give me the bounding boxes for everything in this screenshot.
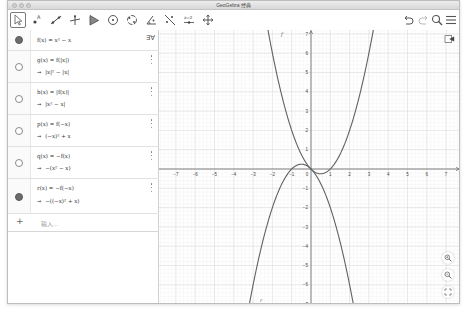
svg-text:f: f [280,32,284,37]
result-r: →−((−x)² + x) [37,198,80,204]
line-icon [50,14,62,26]
svg-text:−6: −6 [303,282,309,287]
undo-icon [403,14,415,26]
svg-text:−1: −1 [289,172,295,177]
algebra-item-h[interactable]: h(x) = |f(x)| →|x² − x| [8,83,159,115]
result-g: →|x|² − |x| [37,69,69,75]
marble-cell [8,147,31,178]
arrow-icon: → [37,101,41,107]
curve-r [246,164,357,304]
fullscreen-icon [444,288,452,296]
result-text: |x² − x| [45,101,65,107]
zoom-out-button[interactable] [442,269,454,281]
svg-text:−3: −3 [303,225,309,230]
algebra-item-q[interactable]: q(x) = −f(x) →−(x² − x) [8,147,159,179]
more-options-icon[interactable] [150,55,153,64]
plus-icon[interactable]: + [16,216,24,226]
angle-icon [145,14,157,26]
visibility-toggle-g[interactable] [15,63,23,71]
result-text: |x|² − |x| [45,69,69,75]
style-bar-toggle-button[interactable] [443,33,457,45]
definition-p[interactable]: p(x) = f(−x) [37,121,70,127]
window-title: GeoGebra 经典 [8,1,459,10]
algebra-item-f[interactable]: f(x) = x² − x ∃∀ [8,30,159,51]
arrow-icon: → [37,165,41,171]
more-options-icon[interactable] [150,151,153,160]
svg-text:−5: −5 [212,172,218,177]
visibility-toggle-h[interactable] [15,95,23,103]
svg-text:−1: −1 [303,186,309,191]
algebra-view: f(x) = x² − x ∃∀ g(x) = f(|x|) →|x|² − |… [8,30,159,304]
marble-cell [8,51,31,82]
polygon-tool-button[interactable] [86,12,102,28]
visibility-toggle-r[interactable] [15,193,23,201]
graphics-view[interactable]: −7−6−5−4−3−2−1012345671234567−1−2−3−4−5−… [159,30,460,304]
svg-text:−4: −4 [231,172,237,177]
zoom-in-icon [444,254,452,262]
slider-tool-button[interactable]: a=2 [181,12,197,28]
result-q: →−(x² − x) [37,165,71,171]
marble-cell [8,83,31,114]
definition-g[interactable]: g(x) = f(|x|) [37,57,69,63]
zoom-out-icon [444,271,452,279]
polygon-icon [88,14,100,26]
svg-text:−2: −2 [270,172,276,177]
menu-icon [445,14,457,26]
svg-text:−3: −3 [251,172,257,177]
point-tool-button[interactable]: A [29,12,45,28]
visibility-toggle-q[interactable] [15,159,23,167]
style-bar-icon [444,34,456,44]
reflect-tool-button[interactable] [162,12,178,28]
svg-text:a=2: a=2 [184,15,193,20]
move-graphics-view-tool-button[interactable] [200,12,216,28]
reflect-icon [164,14,176,26]
visibility-toggle-f[interactable] [15,36,23,44]
circle-three-points-tool-button[interactable] [124,12,140,28]
algebra-item-g[interactable]: g(x) = f(|x|) →|x|² − |x| [8,51,159,83]
svg-text:−5: −5 [303,263,309,268]
marble-cell [8,179,31,213]
circle-center-icon [107,14,119,26]
result-h: →|x² − x| [37,101,65,107]
visibility-toggle-p[interactable] [15,127,23,135]
perpendicular-line-icon [69,14,81,26]
result-text: −(x² − x) [45,165,70,171]
svg-text:−7: −7 [173,172,179,177]
result-p: →(−x)² + x [37,133,71,139]
search-button[interactable] [430,13,444,27]
function-plot[interactable]: −7−6−5−4−3−2−1012345671234567−1−2−3−4−5−… [159,30,460,304]
svg-text:−4: −4 [303,244,309,249]
definition-h[interactable]: h(x) = |f(x)| [37,89,69,95]
result-text: (−x)² + x [45,133,70,139]
definition-f[interactable]: f(x) = x² − x [37,37,71,43]
arrow-icon: → [37,69,41,75]
more-options-icon[interactable] [150,87,153,96]
marble-cell [8,115,31,146]
title-bar: GeoGebra 经典 [8,1,459,10]
algebra-input-row[interactable]: + 输入... [8,214,159,232]
more-options-icon[interactable] [150,183,153,192]
line-tool-button[interactable] [48,12,64,28]
algebra-input[interactable]: 输入... [41,219,58,228]
sort-button[interactable]: ∃∀ [146,34,155,42]
svg-text:A: A [37,14,41,20]
undo-button[interactable] [402,13,416,27]
redo-button[interactable] [416,13,430,27]
algebra-item-p[interactable]: p(x) = f(−x) →(−x)² + x [8,115,159,147]
circle-center-tool-button[interactable] [105,12,121,28]
zoom-in-button[interactable] [442,252,454,264]
algebra-item-r[interactable]: r(x) = −f(−x) →−((−x)² + x) [8,179,159,214]
perpendicular-line-tool-button[interactable] [67,12,83,28]
marble-cell [8,30,31,50]
svg-text:r: r [260,298,263,303]
more-options-icon[interactable] [150,119,153,128]
move-view-icon [202,14,214,26]
main-menu-button[interactable] [444,13,458,27]
svg-text:−2: −2 [303,205,309,210]
cursor-arrow-icon [12,14,24,26]
fullscreen-button[interactable] [442,286,454,298]
definition-r[interactable]: r(x) = −f(−x) [37,185,74,191]
angle-tool-button[interactable] [143,12,159,28]
definition-q[interactable]: q(x) = −f(x) [37,153,70,159]
move-tool-button[interactable] [10,12,26,28]
